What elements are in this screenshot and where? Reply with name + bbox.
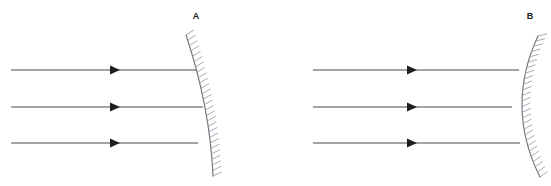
panel-a-mirror-hatch-tick: [201, 84, 209, 89]
panel-a-mirror-hatch-tick: [211, 144, 219, 148]
panel-a: A: [11, 11, 221, 176]
panel-a-mirror-hatch-tick: [193, 51, 201, 56]
panel-a-mirror-hatch-tick: [186, 30, 194, 35]
panel-b-mirror-hatch-tick: [527, 65, 536, 68]
panel-b-mirror-hatch-tick: [522, 108, 530, 112]
panel-b-mirror-hatch-tick: [531, 151, 539, 156]
panel-a-ray-bottom-arrow-icon: [110, 139, 120, 148]
panel-a-mirror-hatch-tick: [212, 155, 220, 159]
panel-a-ray-middle-arrow-icon: [110, 103, 120, 112]
panel-b-mirror-hatch-tick: [526, 136, 534, 141]
panel-b-mirror-hatch-tick: [540, 172, 547, 177]
panel-b-mirror-hatch-tick: [524, 76, 532, 79]
panel-b-mirror-hatch-tick: [523, 86, 531, 89]
panel-a-mirror-hatch-tick: [203, 95, 211, 100]
panel-a-mirror-hatch-tick: [200, 78, 208, 83]
panel-a-mirror-hatch-tick: [207, 117, 215, 121]
panel-a-rays: [11, 66, 203, 148]
panel-a-mirror-hatch-tick: [202, 89, 210, 94]
panel-b-mirror-hatch-tick: [524, 125, 532, 129]
panel-b-mirror-hatching: [522, 34, 547, 177]
panel-b-mirror-hatch-tick: [528, 60, 537, 63]
panel-a-mirror-hatch-tick: [188, 35, 196, 40]
panel-a-label: A: [193, 11, 200, 21]
panel-b-mirror-hatch-tick: [529, 146, 537, 151]
panel-a-mirror-hatch-tick: [212, 150, 220, 154]
panel-b-mirror-hatch-tick: [523, 114, 531, 118]
panel-b-ray-middle-arrow-icon: [407, 103, 417, 112]
panel-b-mirror: [522, 34, 547, 177]
panel-a-mirror-hatch-tick: [209, 128, 217, 132]
panel-b-mirror-hatch-tick: [533, 157, 540, 162]
panel-a-mirror-hatch-tick: [198, 73, 206, 78]
panel-a-mirror-hatch-tick: [189, 41, 197, 46]
optics-mirror-figure: A B: [0, 0, 551, 186]
panel-a-mirror-hatch-tick: [204, 100, 212, 104]
panel-b-mirror-hatch-tick: [522, 92, 530, 96]
panel-b-rays: [313, 66, 520, 148]
panel-b-ray-bottom-arrow-icon: [407, 139, 417, 148]
panel-b-mirror-hatch-tick: [525, 70, 533, 73]
panel-b-mirror-hatch-tick: [523, 81, 531, 84]
panel-a-mirror-hatch-tick: [208, 122, 216, 126]
panel-a-mirror-hatch-tick: [210, 133, 218, 137]
panel-a-mirror-hatch-tick: [210, 139, 218, 143]
panel-b-ray-top-arrow-icon: [407, 66, 417, 75]
panel-a-mirror-hatch-tick: [213, 172, 221, 176]
panel-b-mirror-hatch-tick: [528, 141, 536, 146]
panel-b-mirror-curve: [522, 36, 540, 177]
figure-canvas: A B: [0, 0, 551, 186]
panel-a-ray-top-arrow-icon: [110, 66, 120, 75]
panel-a-mirror-curve: [186, 35, 213, 176]
panel-a-mirror-hatch-tick: [213, 166, 221, 170]
panel-a-mirror-hatch-tick: [205, 106, 213, 110]
panel-b-mirror-hatch-tick: [538, 34, 547, 36]
panel-a-mirror-hatch-tick: [197, 67, 205, 72]
panel-a-mirror-hatch-tick: [191, 46, 199, 51]
panel-b-mirror-hatch-tick: [535, 162, 542, 167]
panel-a-mirror-hatch-tick: [212, 161, 220, 165]
panel-b-mirror-hatch-tick: [525, 130, 533, 135]
panel-a-mirror-hatch-tick: [206, 111, 214, 115]
panel-b-mirror-hatch-tick: [522, 97, 530, 101]
panel-a-mirror-hatch-tick: [196, 62, 204, 67]
panel-b: B: [313, 11, 547, 177]
panel-b-mirror-hatch-tick: [538, 167, 545, 172]
panel-b-mirror-hatch-tick: [523, 119, 531, 123]
panel-a-mirror: [186, 30, 221, 176]
panel-a-mirror-hatch-tick: [194, 57, 202, 62]
panel-b-mirror-hatch-tick: [522, 103, 530, 107]
panel-b-label: B: [527, 11, 534, 21]
